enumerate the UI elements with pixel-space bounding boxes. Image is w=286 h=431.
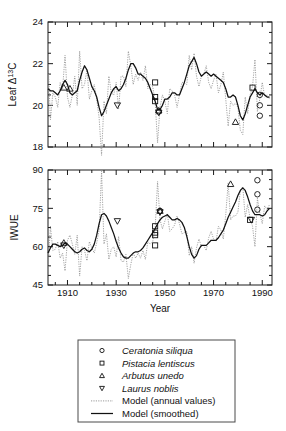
legend-label: Arbutus unedo bbox=[121, 370, 184, 381]
marker-circle bbox=[257, 103, 262, 108]
x-axis-title: Year bbox=[150, 303, 171, 314]
legend-label: Model (smoothed) bbox=[122, 408, 199, 419]
x-tick-label: 1970 bbox=[203, 287, 224, 298]
marker-triangle-up bbox=[232, 119, 238, 125]
y-tick-label: 24 bbox=[32, 16, 43, 27]
legend-label: Ceratonia siliqua bbox=[122, 345, 193, 356]
panel-leaf-d13c: 18202224Leaf Δ13C bbox=[7, 16, 273, 155]
legend: Ceratonia siliquaPistacia lentiscusArbut… bbox=[78, 340, 235, 422]
marker-square bbox=[153, 243, 158, 248]
marker-circle bbox=[255, 192, 260, 197]
x-tick-label: 1950 bbox=[154, 287, 175, 298]
axis-frame-iwue bbox=[48, 170, 272, 285]
marker-square bbox=[153, 80, 158, 85]
x-tick-label: 1910 bbox=[57, 287, 78, 298]
y-axis-title-leaf: Leaf Δ13C bbox=[7, 63, 19, 107]
marker-triangle-down bbox=[114, 219, 120, 225]
y-axis-title-iwue: IWUE bbox=[9, 214, 20, 240]
legend-label: Model (annual values) bbox=[122, 395, 215, 406]
marker-circle bbox=[257, 113, 262, 118]
y-tick-label: 18 bbox=[32, 141, 43, 152]
markers-leaf-d13c bbox=[61, 80, 263, 125]
series-annual bbox=[48, 51, 270, 155]
y-tick-label: 45 bbox=[32, 279, 43, 290]
panel-iwue: 4560759019101930195019701990IWUEYear bbox=[9, 164, 273, 314]
y-tick-label: 75 bbox=[32, 203, 43, 214]
y-tick-label: 60 bbox=[32, 241, 43, 252]
legend-label: Laurus noblis bbox=[122, 383, 179, 394]
x-axis-iwue: 19101930195019701990 bbox=[55, 170, 273, 298]
legend-label: Pistacia lentiscus bbox=[122, 358, 195, 369]
x-tick-label: 1990 bbox=[252, 287, 273, 298]
y-tick-label: 20 bbox=[32, 100, 43, 111]
axis-frame-leaf-d13c bbox=[48, 22, 272, 147]
y-tick-label: 90 bbox=[32, 164, 43, 175]
y-tick-label: 22 bbox=[32, 58, 43, 69]
series-annual bbox=[48, 171, 270, 278]
figure-canvas: 18202224Leaf Δ13C45607590191019301950197… bbox=[0, 0, 286, 431]
x-tick-label: 1930 bbox=[106, 287, 127, 298]
figure-root: 18202224Leaf Δ13C45607590191019301950197… bbox=[0, 0, 286, 431]
marker-triangle-down bbox=[114, 103, 120, 109]
series-group-leaf-d13c bbox=[48, 51, 270, 155]
marker-circle bbox=[255, 177, 260, 182]
series-group-iwue bbox=[48, 171, 270, 278]
